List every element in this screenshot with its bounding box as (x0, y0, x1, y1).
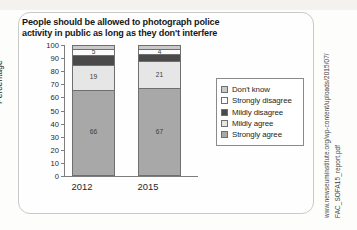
source-url-text: www.newseuminstitute.org/wp-content/uplo… (323, 53, 330, 218)
segment-value-label: 21 (156, 72, 163, 79)
source-file-text: FAC_SOFA15_report.pdf (334, 145, 341, 218)
scan-edge-artifact (0, 0, 357, 10)
y-tick-mark (61, 124, 64, 125)
y-tick-label: 0 (55, 172, 59, 181)
bar-segment: 67 (138, 88, 181, 176)
legend-item[interactable]: Mildly agree (221, 119, 298, 128)
legend-item[interactable]: Don't know (221, 85, 298, 94)
y-tick-mark (61, 71, 64, 72)
legend-item[interactable]: Strongly disagree (221, 96, 298, 105)
bar-segment: 66 (72, 90, 115, 176)
y-tick-label: 80 (51, 67, 59, 76)
bar-segment: 21 (138, 61, 181, 89)
chart-legend: Don't knowStrongly disagreeMildly disagr… (216, 78, 304, 146)
legend-label: Mildly agree (232, 119, 273, 128)
bar-2012: 3571966 (72, 45, 115, 176)
y-tick-label: 70 (51, 80, 59, 89)
legend-swatch-icon (221, 109, 228, 116)
legend-item[interactable]: Strongly agree (221, 130, 298, 139)
page-background: People should be allowed to photograph p… (0, 0, 357, 230)
legend-swatch-icon (221, 131, 228, 138)
legend-label: Strongly agree (232, 130, 282, 139)
legend-label: Strongly disagree (232, 96, 292, 105)
segment-value-label: 66 (90, 129, 97, 136)
legend-swatch-icon (221, 97, 228, 104)
legend-item[interactable]: Mildly disagree (221, 108, 298, 117)
legend-label: Don't know (232, 85, 270, 94)
bar-2015: 3452167 (138, 45, 181, 176)
segment-value-label: 19 (90, 74, 97, 81)
y-tick-label: 10 (51, 158, 59, 167)
legend-label: Mildly disagree (232, 108, 283, 117)
x-tick-label-2015: 2015 (118, 181, 178, 192)
y-tick-mark (61, 58, 64, 59)
y-tick-label: 30 (51, 132, 59, 141)
y-tick-mark (61, 176, 64, 177)
y-tick-label: 100 (46, 41, 59, 50)
y-axis-label: Percentage (0, 60, 4, 104)
y-tick-mark (61, 111, 64, 112)
chart-title: People should be allowed to photograph p… (22, 17, 250, 40)
y-tick-label: 50 (51, 106, 59, 115)
segment-value-label: 67 (156, 129, 163, 136)
y-tick-mark (61, 45, 64, 46)
y-tick-label: 20 (51, 145, 59, 154)
legend-swatch-icon (221, 120, 228, 127)
y-tick-mark (61, 163, 64, 164)
bar-segment: 7 (72, 55, 115, 64)
y-tick-label: 60 (51, 93, 59, 102)
y-tick-mark (61, 97, 64, 98)
y-tick-label: 90 (51, 54, 59, 63)
x-tick-label-2012: 2012 (52, 181, 112, 192)
bar-segment: 19 (72, 65, 115, 90)
plot-area: 1009080706050403020100 35719663452167 (64, 45, 192, 176)
x-axis-line (64, 176, 198, 177)
y-tick-mark (61, 150, 64, 151)
y-tick-mark (61, 137, 64, 138)
legend-swatch-icon (221, 86, 228, 93)
y-tick-label: 40 (51, 119, 59, 128)
y-tick-mark (61, 84, 64, 85)
